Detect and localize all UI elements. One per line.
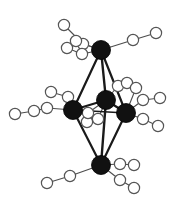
- ligand-atom-chain-top-b-0: [76, 48, 87, 59]
- metal-atom-M-equator-left: [64, 101, 83, 120]
- ligand-atom-chain-left-lower-0: [41, 102, 52, 113]
- ligand-atom-chain-bottom-left-0: [64, 170, 75, 181]
- ligand-atom-chain-right-lower-1: [152, 120, 163, 131]
- metal-atom-M-apex-bottom: [92, 156, 111, 175]
- ligand-atom-chain-left-upper-1: [45, 86, 56, 97]
- ligand-atom-chain-mid-lower-0: [92, 113, 103, 124]
- ligand-atom-chain-right-upper-0: [137, 94, 148, 105]
- metal-atom-M-apex-top: [92, 41, 111, 60]
- metal-atom-M-equator-mid: [97, 91, 116, 110]
- metal-atom-layer: [64, 41, 136, 175]
- ligand-atom-chain-right-lower-0: [137, 113, 148, 124]
- ligand-atom-chain-bottom-left-1: [41, 177, 52, 188]
- ligand-atom-chain-bottom-right-b-0: [114, 174, 125, 185]
- structure-canvas: [0, 0, 183, 206]
- ligand-atom-chain-bottom-right-a-0: [114, 158, 125, 169]
- ligand-atom-chain-top-right-1: [150, 27, 161, 38]
- metal-atom-M-equator-right: [117, 104, 136, 123]
- molecular-structure-figure: [0, 0, 183, 206]
- ligand-atom-chain-mid-lower-b-0: [82, 107, 93, 118]
- ligand-atom-chain-left-lower-2: [9, 108, 20, 119]
- ligand-atom-chain-right-upper-1: [154, 92, 165, 103]
- ligand-atom-chain-top-c-0: [70, 35, 81, 46]
- ligand-atom-chain-bottom-right-a-1: [128, 159, 139, 170]
- ligand-atom-chain-top-a-1: [58, 19, 69, 30]
- ligand-atom-chain-right-top-0: [130, 82, 141, 93]
- ligand-atom-chain-left-lower-1: [28, 105, 39, 116]
- ligand-atom-chain-bottom-right-b-1: [128, 182, 139, 193]
- ligand-atom-chain-top-right-0: [127, 34, 138, 45]
